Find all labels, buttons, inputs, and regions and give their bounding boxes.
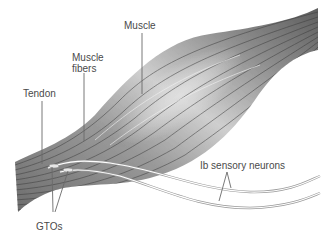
muscle-body [15,8,318,212]
muscle-label: Muscle [124,20,156,31]
tendon-label: Tendon [23,88,56,99]
muscle-diagram: Muscle Muscle fibers Tendon GTOs Ib sens… [0,0,336,243]
ib-sensory-neurons-label: Ib sensory neurons [200,160,285,171]
muscle-fibers-label-line1: Muscle [72,52,104,63]
neuron-leader-line-1 [227,172,231,188]
gtos-label: GTOs [36,221,62,232]
muscle-fibers-label-line2: fibers [72,63,96,74]
muscle-illustration [0,0,336,243]
neuron-leader-line-2 [219,172,227,201]
